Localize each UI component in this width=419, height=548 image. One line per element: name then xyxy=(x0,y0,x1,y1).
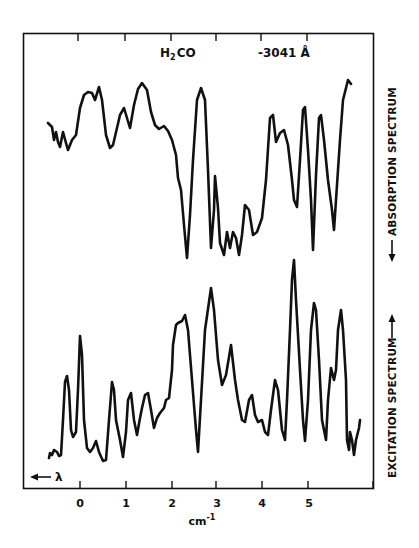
x-tick-2: 2 xyxy=(168,497,176,510)
x-tick-1: 1 xyxy=(122,497,130,510)
excitation-spectrum-curve xyxy=(49,260,360,461)
x-tick-5: 5 xyxy=(305,497,313,510)
arrow-down-icon xyxy=(389,254,396,262)
absorption-label-text: ABSORPTION SPECTRUM xyxy=(386,87,398,236)
absorption-spectrum-curve xyxy=(48,80,351,258)
x-axis-label: cm-1 xyxy=(189,513,216,528)
absorption-spectrum-side-label: ABSORPTION SPECTRUM xyxy=(386,87,398,262)
lambda-direction-indicator: λ xyxy=(30,470,63,484)
x-tick-4: 4 xyxy=(258,497,266,510)
left-arrow-icon xyxy=(30,474,38,481)
excitation-spectrum-side-label: EXCITATION SPECTRUM xyxy=(386,314,398,478)
chart-title-wavelength: -3041 Å xyxy=(258,45,311,60)
excitation-label-text: EXCITATION SPECTRUM xyxy=(386,337,398,478)
x-tick-0: 0 xyxy=(76,497,84,510)
chart-title-molecule: H2CO xyxy=(160,46,196,62)
spectrum-figure: 0 1 2 3 4 5 cm-1 H2CO -3041 Å λ ABSORPTI… xyxy=(0,0,419,548)
x-tick-3: 3 xyxy=(213,497,221,510)
x-tick-labels: 0 1 2 3 4 5 xyxy=(76,497,313,510)
arrow-up-icon xyxy=(389,314,396,322)
lambda-symbol: λ xyxy=(55,470,63,484)
